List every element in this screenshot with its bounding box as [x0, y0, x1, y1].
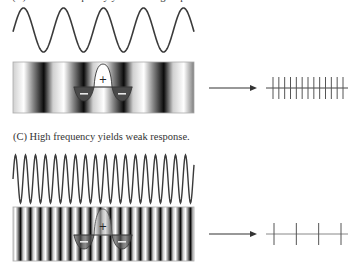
- minus-sign-right: [118, 93, 126, 95]
- minus-sign-left: [80, 241, 88, 243]
- minus-sign-right: [118, 241, 126, 243]
- diagram-canvas: + +: [0, 0, 353, 263]
- panel-b: +: [13, 8, 348, 113]
- panel-c: +: [13, 155, 348, 261]
- spike-train-strong: [266, 77, 348, 99]
- arrow-b: [209, 85, 257, 91]
- minus-sign-left: [80, 93, 88, 95]
- arrow-c: [209, 231, 257, 237]
- spike-train-weak: [266, 223, 348, 245]
- high-frequency-wave: [13, 155, 194, 203]
- medium-frequency-wave: [13, 8, 194, 52]
- plus-sign: +: [99, 221, 107, 232]
- plus-sign: +: [99, 74, 107, 85]
